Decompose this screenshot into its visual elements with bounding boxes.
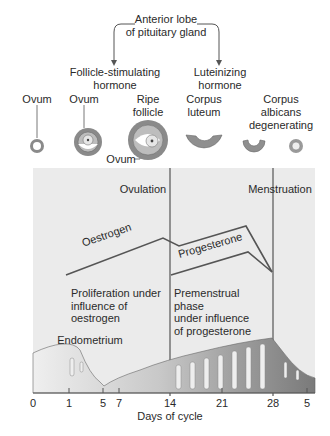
stage-ripe-label-line1: Ripe (126, 93, 170, 105)
corpus-albicans-icon (243, 139, 303, 153)
stage-luteum-label-line1: Corpus (182, 93, 226, 105)
x-axis-label: Days of cycle (130, 410, 210, 422)
ovulation-label: Ovulation (118, 183, 168, 195)
stage-ovum-1-label: Ovum (15, 93, 59, 105)
fsh-label-line2: hormone (62, 79, 168, 91)
pituitary-label-line1: Anterior lobe (125, 13, 207, 25)
ovum-callout-label: Ovum (104, 153, 138, 165)
stage-albicans-label-line2: albicans (246, 106, 316, 118)
pituitary-label-line2: of pituitary gland (118, 26, 214, 38)
tick-28: 28 (264, 397, 282, 409)
tick-5: 5 (96, 397, 110, 409)
endometrium-label: Endometrium (55, 334, 125, 346)
tick-5-next: 5 (300, 397, 314, 409)
stage-luteum-label-line2: luteum (182, 106, 226, 118)
lh-label-line2: hormone (188, 79, 252, 91)
premenstrual-phase-text: Premenstrual phase under influence of pr… (174, 287, 270, 337)
lh-label-line1: Luteinizing (188, 66, 252, 78)
stage-albicans-label-line1: Corpus (246, 93, 316, 105)
stage-ripe-label-line2: follicle (126, 106, 170, 118)
fsh-label-line1: Follicle-stimulating (62, 66, 168, 78)
tick-1: 1 (62, 397, 76, 409)
tick-0: 0 (26, 397, 40, 409)
tick-14: 14 (161, 397, 179, 409)
ovum-stage-2-icon (74, 128, 102, 156)
tick-7: 7 (112, 397, 126, 409)
ovum-stage-1-icon (30, 139, 44, 153)
proliferation-phase-text: Proliferation under influence of oestrog… (71, 287, 167, 325)
stage-ovum-2-label: Ovum (62, 93, 106, 105)
menstruation-label: Menstruation (248, 183, 312, 195)
corpus-luteum-icon (186, 135, 222, 148)
tick-21: 21 (213, 397, 231, 409)
stage-albicans-label-line3: degenerating (246, 119, 316, 131)
